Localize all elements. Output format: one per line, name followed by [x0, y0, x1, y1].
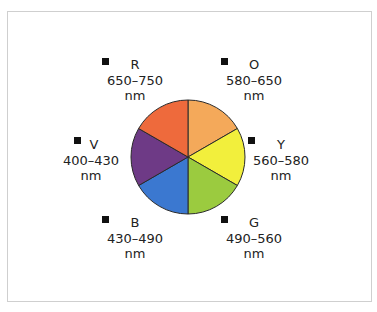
label-violet: V 400–430 nm	[56, 137, 126, 184]
label-yellow-range: 560–580	[246, 153, 316, 169]
label-blue: B 430–490 nm	[100, 215, 170, 262]
label-yellow: Y 560–580 nm	[246, 137, 316, 184]
label-green-unit: nm	[219, 246, 289, 262]
label-blue-range: 430–490	[100, 231, 170, 247]
label-violet-unit: nm	[56, 168, 126, 184]
label-orange-range: 580–650	[219, 73, 289, 89]
label-yellow-unit: nm	[246, 168, 316, 184]
label-red-unit: nm	[100, 88, 170, 104]
label-green-letter: G	[219, 215, 289, 231]
label-red-letter: R	[100, 57, 170, 73]
label-green-range: 490–560	[219, 231, 289, 247]
label-red-range: 650–750	[100, 73, 170, 89]
label-blue-letter: B	[100, 215, 170, 231]
label-violet-range: 400–430	[56, 153, 126, 169]
label-orange: O 580–650 nm	[219, 57, 289, 104]
label-green: G 490–560 nm	[219, 215, 289, 262]
label-red: R 650–750 nm	[100, 57, 170, 104]
label-yellow-letter: Y	[246, 137, 316, 153]
label-orange-letter: O	[219, 57, 289, 73]
label-orange-unit: nm	[219, 88, 289, 104]
label-blue-unit: nm	[100, 246, 170, 262]
label-violet-letter: V	[62, 137, 126, 153]
